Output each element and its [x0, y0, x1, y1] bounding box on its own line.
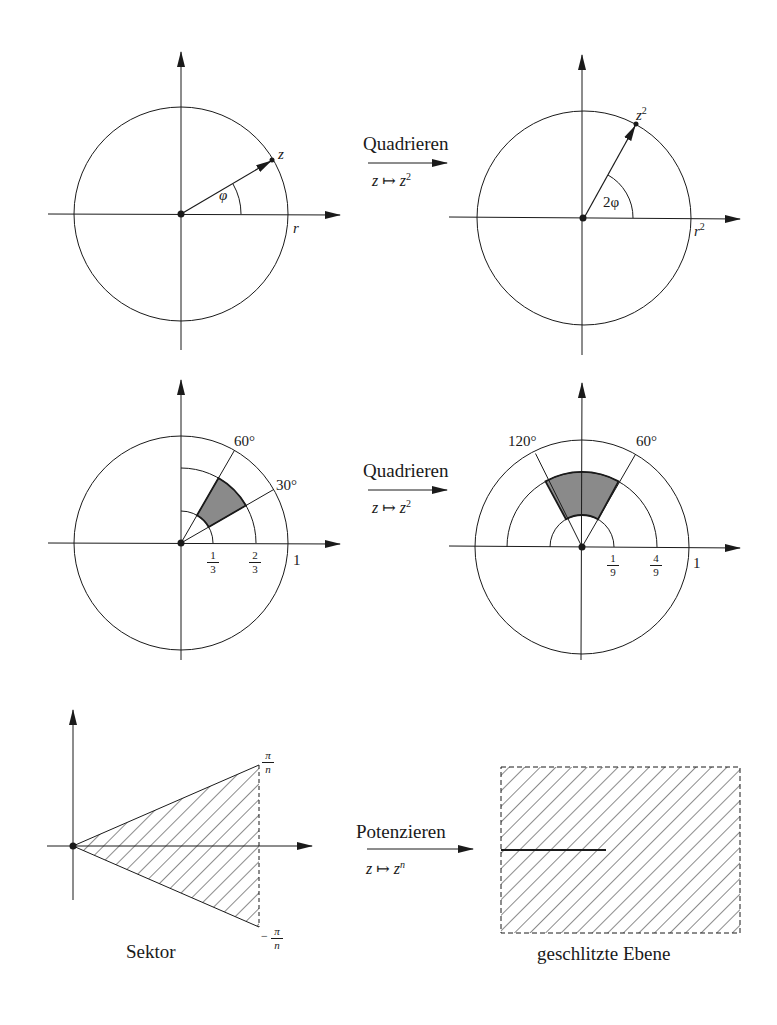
row2-right-angle-120: 120°	[508, 434, 537, 449]
numerator: π	[262, 750, 274, 763]
formula-lhs: z	[366, 860, 372, 877]
row3-left-lower-angle: πn	[271, 926, 283, 951]
formula-exponent: 2	[406, 171, 411, 182]
row3-left-caption: Sektor	[126, 942, 176, 961]
row1-right-angle-label: 2φ	[603, 195, 619, 210]
denominator: 3	[207, 563, 219, 575]
numerator: 1	[607, 553, 619, 566]
numerator: 4	[650, 553, 662, 566]
maps-to-symbol: ↦	[376, 860, 389, 877]
formula-exponent: n	[400, 859, 405, 870]
origin-dot	[579, 544, 586, 551]
row1-map-title: Quadrieren	[363, 134, 448, 153]
angle-arc	[233, 184, 241, 214]
row2-right-tick-one-ninth: 19	[607, 553, 619, 578]
maps-to-symbol: ↦	[382, 172, 395, 189]
row2-left-angle-60: 60°	[234, 434, 255, 449]
row1-left-point-label: z	[278, 147, 284, 162]
denominator: n	[271, 939, 283, 951]
x-axis	[449, 217, 740, 219]
formula-lhs: z	[372, 499, 378, 516]
denominator: 3	[249, 563, 261, 575]
formula-exponent: 2	[406, 498, 411, 509]
row2-right-angle-60: 60°	[636, 434, 657, 449]
row2-right-diagram	[449, 383, 740, 660]
origin-dot	[178, 540, 185, 547]
point-z	[270, 158, 275, 163]
row2-left-angle-30: 30°	[276, 478, 297, 493]
row3-left-minus-sign: −	[261, 930, 268, 942]
row2-right-tick-four-ninths: 49	[650, 553, 662, 578]
row3-map-title: Potenzieren	[356, 822, 446, 841]
row1-right-diagram	[449, 55, 740, 355]
row3-map-formula: z ↦ zn	[366, 860, 405, 877]
row1-left-angle-label: φ	[219, 188, 227, 203]
x-axis	[449, 546, 740, 548]
row3-right-diagram	[501, 767, 740, 933]
row3-right-caption: geschlitzte Ebene	[537, 944, 670, 963]
radius-exponent: 2	[700, 221, 705, 232]
y-axis	[581, 383, 582, 660]
point-exponent: 2	[642, 105, 647, 116]
origin-dot	[70, 843, 77, 850]
x-axis	[48, 214, 340, 215]
row1-left-diagram	[48, 52, 340, 350]
row2-left-tick-two-thirds: 23	[249, 550, 261, 575]
formula-lhs: z	[372, 172, 378, 189]
row1-map-formula: z ↦ z2	[372, 172, 411, 189]
row1-right-radius-label: r2	[694, 222, 705, 239]
row2-map-formula: z ↦ z2	[372, 499, 411, 516]
row3-left-upper-angle: πn	[262, 750, 274, 775]
origin-dot	[178, 211, 185, 218]
row1-right-point-label: z2	[636, 106, 647, 123]
row2-right-radius-label: 1	[693, 556, 701, 571]
numerator: π	[271, 926, 283, 939]
maps-to-symbol: ↦	[382, 499, 395, 516]
row3-left-diagram	[47, 710, 312, 940]
row2-left-radius-label: 1	[293, 553, 301, 568]
denominator: n	[262, 763, 274, 775]
denominator: 9	[607, 566, 619, 578]
row1-left-radius-label: r	[293, 221, 299, 236]
numerator: 2	[249, 550, 261, 563]
x-axis	[48, 543, 340, 544]
hatched-sector	[60, 750, 270, 940]
row2-left-diagram	[48, 380, 340, 660]
row2-left-tick-one-third: 13	[207, 550, 219, 575]
numerator: 1	[207, 550, 219, 563]
row2-map-title: Quadrieren	[363, 461, 448, 480]
origin-dot	[580, 215, 587, 222]
denominator: 9	[650, 566, 662, 578]
